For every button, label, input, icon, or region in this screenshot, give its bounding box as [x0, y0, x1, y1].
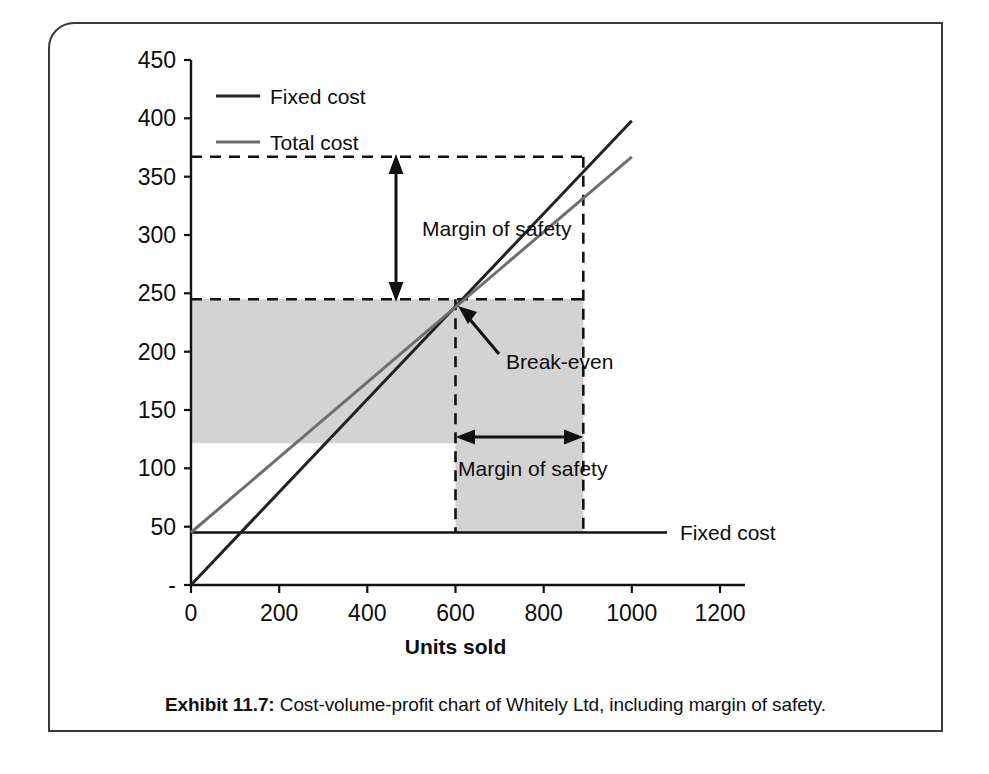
x-tick-label: 800 [525, 600, 563, 626]
x-axis-title: Units sold [405, 635, 507, 658]
x-tick-label: 1000 [606, 600, 657, 626]
break-even-label: Break-even [506, 350, 613, 373]
legend-label-fixed-cost: Fixed cost [270, 85, 366, 108]
y-tick-label: 100 [138, 455, 176, 481]
margin-of-safety-vertical-arrow [389, 154, 404, 302]
y-tick-label: 200 [138, 339, 176, 365]
legend-label-total-cost: Total cost [270, 131, 359, 154]
margin-of-safety-shaded-region-right [456, 299, 584, 532]
x-axis-tick-labels: 0 200 400 600 800 1000 1200 [185, 600, 746, 626]
y-tick-label: 150 [138, 397, 176, 423]
caption-label: Exhibit 11.7: [165, 694, 275, 715]
y-tick-label: - [168, 572, 176, 598]
y-tick-label: 50 [150, 514, 176, 540]
y-tick-label: 300 [138, 222, 176, 248]
fixed-cost-right-label: Fixed cost [680, 521, 776, 544]
y-tick-label: 400 [138, 105, 176, 131]
x-tick-label: 200 [260, 600, 298, 626]
y-tick-label: 250 [138, 280, 176, 306]
margin-of-safety-vertical-label: Margin of safety [422, 217, 572, 240]
x-tick-label: 0 [185, 600, 198, 626]
x-tick-label: 400 [348, 600, 386, 626]
margin-of-safety-horizontal-label: Margin of safety [458, 457, 608, 480]
cost-volume-profit-chart: 450 400 350 300 250 200 150 100 50 - [50, 24, 945, 664]
caption-text: Cost-volume-profit chart of Whitely Ltd,… [280, 694, 826, 715]
y-tick-label: 450 [138, 47, 176, 73]
chart-area: 450 400 350 300 250 200 150 100 50 - [50, 24, 945, 664]
x-tick-label: 600 [436, 600, 474, 626]
figure-frame: 450 400 350 300 250 200 150 100 50 - [48, 22, 943, 732]
x-tick-label: 1200 [694, 600, 745, 626]
y-tick-label: 350 [138, 164, 176, 190]
legend: Fixed cost Total cost [216, 85, 366, 154]
y-axis-tick-labels: 450 400 350 300 250 200 150 100 50 - [138, 47, 176, 598]
figure-caption: Exhibit 11.7: Cost-volume-profit chart o… [50, 694, 941, 716]
